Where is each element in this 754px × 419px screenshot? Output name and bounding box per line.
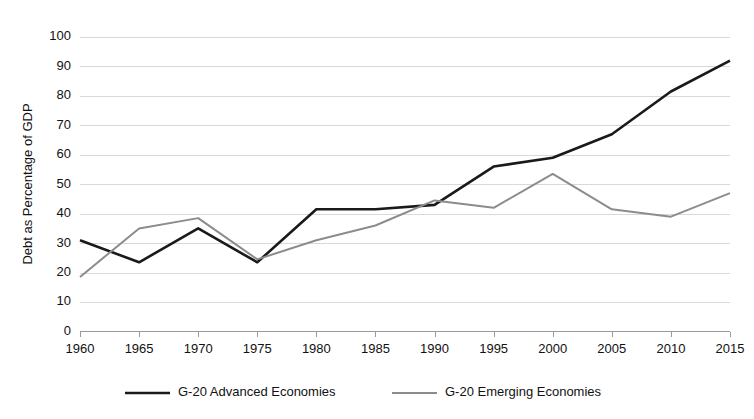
- y-tick-label: 80: [57, 87, 71, 102]
- y-tick-label: 20: [57, 264, 71, 279]
- chart-legend: G-20 Advanced EconomiesG-20 Emerging Eco…: [125, 384, 602, 399]
- x-tick-label: 2015: [716, 341, 745, 356]
- y-tick-label: 50: [57, 176, 71, 191]
- y-tick-label: 10: [57, 293, 71, 308]
- legend-label-0: G-20 Advanced Economies: [178, 384, 336, 399]
- x-tick-label: 1975: [243, 341, 272, 356]
- y-tick-label: 40: [57, 205, 71, 220]
- legend-label-1: G-20 Emerging Economies: [445, 384, 602, 399]
- y-tick-label: 100: [49, 28, 71, 43]
- line-chart: 0102030405060708090100 19601965197019751…: [0, 0, 754, 419]
- x-tick-label: 2000: [538, 341, 567, 356]
- y-tick-label: 90: [57, 58, 71, 73]
- x-tick-labels: 1960196519701975198019851990199520002005…: [66, 341, 745, 356]
- x-tick-label: 2005: [597, 341, 626, 356]
- series-line-1: [80, 174, 730, 277]
- series-group: [80, 61, 730, 277]
- chart-root: 0102030405060708090100 19601965197019751…: [0, 0, 754, 419]
- y-tick-label: 70: [57, 117, 71, 132]
- x-tick-label: 1970: [184, 341, 213, 356]
- x-tick-label: 1995: [479, 341, 508, 356]
- gridline-group: [80, 38, 730, 303]
- series-line-0: [80, 61, 730, 263]
- y-tick-label: 30: [57, 235, 71, 250]
- x-tick-label: 1980: [302, 341, 331, 356]
- x-tick-label: 1960: [66, 341, 95, 356]
- y-tick-label: 60: [57, 146, 71, 161]
- chart-svg: 0102030405060708090100 19601965197019751…: [0, 0, 754, 419]
- x-tick-label: 1990: [420, 341, 449, 356]
- x-tick-label: 1985: [361, 341, 390, 356]
- x-tick-label: 1965: [125, 341, 154, 356]
- y-tick-labels: 0102030405060708090100: [49, 28, 71, 338]
- y-axis-title: Debt as Percentage of GDP: [20, 103, 35, 264]
- y-tick-label: 0: [64, 323, 71, 338]
- tickmark-group: [81, 332, 731, 337]
- x-tick-label: 2010: [656, 341, 685, 356]
